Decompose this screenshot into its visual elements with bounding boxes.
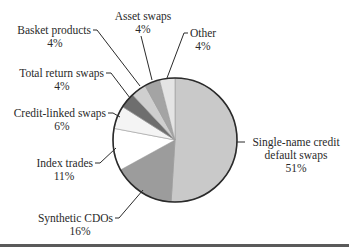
label-index-trades: Index trades bbox=[36, 157, 93, 169]
leader-synthetic-cdos bbox=[115, 190, 143, 218]
label-single-name-line1: Single-name credit bbox=[252, 136, 340, 149]
label-basket-pct: 4% bbox=[47, 37, 63, 49]
pie-chart: Single-name credit default swaps 51% Syn… bbox=[0, 0, 349, 252]
label-total-return: Total return swaps bbox=[19, 67, 104, 80]
leader-index-trades bbox=[95, 148, 116, 163]
pie-slice-single-name-credit-default-swaps bbox=[171, 78, 237, 202]
label-single-name-pct: 51% bbox=[285, 162, 307, 174]
label-total-return-pct: 4% bbox=[54, 80, 70, 92]
label-credit-linked: Credit-linked swaps bbox=[14, 107, 107, 120]
leader-total-return bbox=[106, 73, 130, 98]
label-synthetic-cdos: Synthetic CDOs bbox=[38, 212, 114, 225]
label-other: Other bbox=[190, 27, 216, 39]
label-asset-swaps-pct: 4% bbox=[135, 23, 151, 35]
leader-other bbox=[167, 33, 188, 78]
label-synthetic-cdos-pct: 16% bbox=[69, 225, 91, 237]
bottom-rule bbox=[0, 244, 349, 247]
label-basket: Basket products bbox=[17, 24, 91, 37]
label-credit-linked-pct: 6% bbox=[54, 120, 70, 132]
label-index-trades-pct: 11% bbox=[54, 170, 75, 182]
label-other-pct: 4% bbox=[195, 40, 211, 52]
label-single-name-line2: default swaps bbox=[265, 149, 328, 162]
label-asset-swaps: Asset swaps bbox=[115, 10, 172, 23]
leader-asset-swaps bbox=[141, 36, 152, 80]
